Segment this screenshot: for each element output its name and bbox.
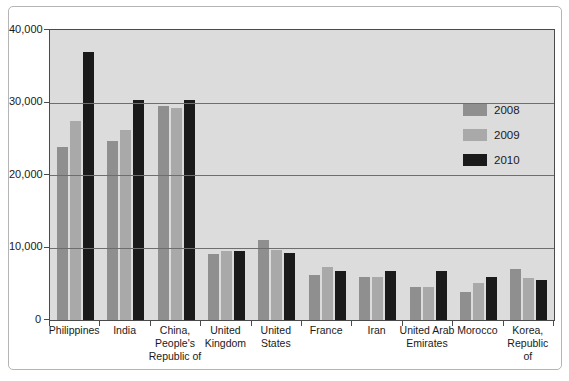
legend-swatch-2009 [463, 129, 487, 141]
legend-row-2008: 2008 [463, 104, 520, 116]
bar-2008-3 [208, 254, 219, 320]
y-axis-label: 20,000 [9, 168, 41, 181]
y-tick-10000 [44, 247, 49, 248]
x-tick-9 [503, 320, 504, 326]
legend: 200820092010 [463, 104, 520, 166]
x-axis-label: United Kingdom [205, 324, 246, 350]
x-tick-5 [301, 320, 302, 326]
gridline-20000 [50, 175, 554, 176]
bar-2009-8 [473, 283, 484, 320]
bar-2010-8 [486, 277, 497, 321]
y-tick-20000 [44, 174, 49, 175]
bar-2008-1 [107, 141, 118, 320]
bar-2010-3 [234, 251, 245, 320]
y-axis-label: 10,000 [9, 240, 41, 253]
bar-2008-0 [57, 147, 68, 320]
bar-2008-5 [309, 275, 320, 320]
x-tick-10 [553, 320, 554, 326]
bar-2009-2 [171, 108, 182, 320]
y-tick-40000 [44, 29, 49, 30]
bar-2010-7 [436, 271, 447, 320]
bar-2010-1 [133, 100, 144, 320]
bar-2010-5 [335, 271, 346, 320]
legend-swatch-2010 [463, 154, 487, 166]
legend-swatch-2008 [463, 104, 487, 116]
legend-label-2010: 2010 [494, 154, 520, 166]
x-axis-label: China, People's Republic of [149, 324, 202, 363]
bar-2008-9 [510, 269, 521, 320]
legend-row-2009: 2009 [463, 129, 520, 141]
bar-2009-7 [423, 287, 434, 320]
x-axis-label: India [113, 324, 136, 337]
bar-2008-6 [359, 277, 370, 320]
x-axis-label: United States [261, 324, 291, 350]
bar-2010-2 [184, 100, 195, 320]
bar-2008-8 [460, 292, 471, 320]
y-tick-30000 [44, 102, 49, 103]
legend-label-2008: 2008 [494, 104, 520, 116]
bar-2009-9 [523, 278, 534, 320]
bar-chart: 200820092010 010,00020,00030,00040,000 P… [9, 7, 561, 369]
y-axis-label: 40,000 [9, 23, 41, 36]
x-axis-label: France [310, 324, 343, 337]
bar-2009-0 [70, 121, 81, 320]
bar-2009-1 [120, 130, 131, 320]
x-tick-6 [351, 320, 352, 326]
bar-2009-6 [372, 277, 383, 321]
bar-2010-4 [284, 253, 295, 320]
bar-2008-7 [410, 287, 421, 320]
bar-2009-3 [221, 251, 232, 320]
x-axis-label: Morocco [457, 324, 497, 337]
gridline-10000 [50, 248, 554, 249]
legend-row-2010: 2010 [463, 154, 520, 166]
bar-2010-0 [83, 52, 94, 320]
plot-area: 200820092010 [49, 29, 555, 321]
legend-label-2009: 2009 [494, 129, 520, 141]
bar-2008-4 [258, 240, 269, 320]
bar-2010-6 [385, 271, 396, 320]
x-axis-label: United Arab Emirates [400, 324, 455, 350]
x-axis-label: Iran [368, 324, 386, 337]
x-tick-4 [251, 320, 252, 326]
bar-2008-2 [158, 106, 169, 320]
y-axis-label: 30,000 [9, 95, 41, 108]
x-axis-label: Korea, Republic of [507, 324, 548, 363]
bar-2009-5 [322, 267, 333, 320]
bar-2010-9 [536, 280, 547, 320]
bar-2009-4 [271, 250, 282, 320]
y-axis-label: 0 [9, 313, 41, 326]
figure-frame: 200820092010 010,00020,00030,00040,000 P… [8, 6, 562, 370]
x-axis-label: Philippines [49, 324, 100, 337]
